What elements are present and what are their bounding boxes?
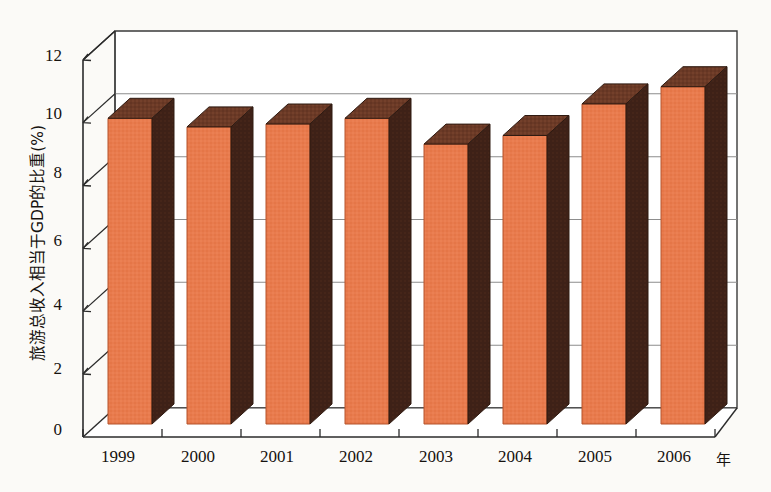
bar-2005 bbox=[582, 84, 648, 424]
bar-chart-3d: 旅游总收入相当于GDP的比重(%) 12 10 8 6 4 2 0 1999 2… bbox=[0, 0, 771, 492]
bar-2001 bbox=[266, 104, 332, 424]
bar-2000 bbox=[187, 107, 253, 424]
bar-2006 bbox=[661, 67, 727, 424]
bar-2004 bbox=[503, 116, 569, 425]
chart-canvas bbox=[0, 0, 771, 492]
bar-1999 bbox=[108, 98, 174, 424]
bar-2003 bbox=[424, 124, 490, 424]
bar-2002 bbox=[345, 98, 411, 424]
y-tick-12 bbox=[83, 31, 115, 61]
